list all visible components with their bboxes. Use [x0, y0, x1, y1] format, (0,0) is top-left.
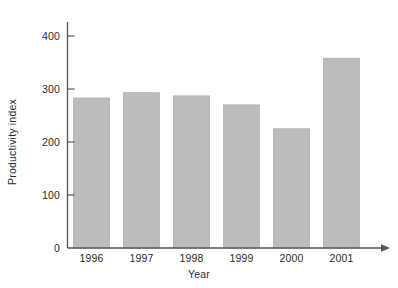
x-tick-label-1996: 1996 [79, 252, 103, 264]
y-tick-label-100: 100 [20, 189, 60, 201]
bar-chart: 0100200300400 199619971998199920002001 Y… [0, 0, 398, 288]
bar-1996 [74, 98, 110, 248]
x-tick-label-1998: 1998 [179, 252, 203, 264]
y-axis-title: Productivity index [6, 99, 18, 185]
y-tick-label-0: 0 [20, 242, 60, 254]
x-axis-title: Year [188, 268, 210, 280]
x-tick-label-2000: 2000 [279, 252, 303, 264]
x-tick-label-2001: 2001 [329, 252, 353, 264]
bar-2000 [274, 129, 310, 248]
bar-1999 [224, 105, 260, 248]
y-tick-label-300: 300 [20, 83, 60, 95]
bars-group [74, 58, 360, 248]
x-tick-label-1999: 1999 [229, 252, 253, 264]
bar-1997 [124, 93, 160, 248]
x-tick-label-1997: 1997 [129, 252, 153, 264]
y-tick-label-200: 200 [20, 136, 60, 148]
x-axis-arrow-icon [381, 244, 390, 252]
bar-1998 [174, 96, 210, 248]
bar-2001 [324, 58, 360, 248]
y-tick-label-400: 400 [20, 30, 60, 42]
